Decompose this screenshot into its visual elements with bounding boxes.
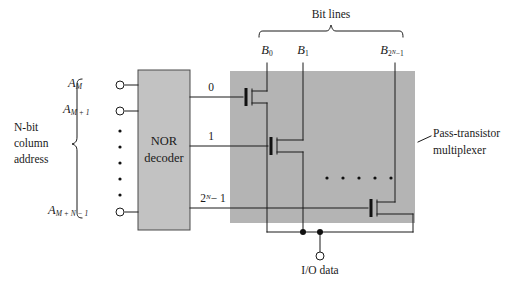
bitlines-bracket-label: Bit lines [312, 9, 351, 21]
address-group-label-line1: N-bit [14, 122, 38, 134]
bitline-label-B1: B1 [297, 44, 308, 58]
wordline-label-0: 0 [208, 82, 214, 94]
mux-label-leader [418, 136, 431, 142]
bitline-label-B0: B0 [261, 44, 272, 58]
diagram-vector-layer [0, 0, 512, 284]
address-terminal-0[interactable] [116, 81, 124, 89]
address-terminal-2[interactable] [116, 208, 124, 216]
nor-decoder-block [138, 70, 190, 230]
diagram-canvas: N-bit column address AM AM + 1 AM + N − … [0, 0, 512, 284]
io-data-label: I/O data [301, 265, 338, 277]
mux-label-line1: Pass-transistor [433, 128, 500, 140]
io-data-terminal[interactable] [316, 252, 324, 260]
address-group-brace [72, 79, 82, 218]
mux-label-line2: multiplexer [433, 145, 486, 157]
wordline-label-1: 1 [208, 131, 214, 143]
nor-decoder-label-line2: decoder [144, 152, 184, 165]
mux-region-fill [230, 71, 415, 223]
address-ellipsis [118, 129, 121, 196]
address-group-label-line2: column [14, 138, 49, 150]
address-label-A-M-plus-N-minus-1: AM + N − 1 [48, 204, 88, 218]
junction-dot-right [317, 229, 323, 235]
wordline-label-n: 2N− 1 [200, 193, 226, 205]
bitline-label-Bn: B2N−1 [380, 44, 403, 58]
address-terminal-1[interactable] [116, 107, 124, 115]
address-group-label-line3: address [14, 154, 49, 166]
address-label-A-M-plus-1: AM + 1 [63, 103, 89, 117]
nor-decoder-label-line1: NOR [151, 135, 177, 148]
address-label-A-M: AM [68, 77, 82, 91]
junction-dot-left [300, 229, 306, 235]
bitlines-bracket [259, 25, 403, 37]
